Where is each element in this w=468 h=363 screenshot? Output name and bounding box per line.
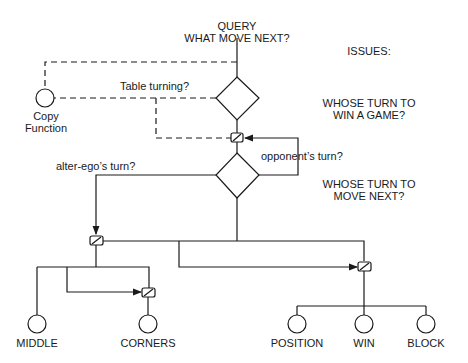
issue2-line1: WHOSE TURN TO [323, 178, 416, 190]
decision-diamond-whose-turn [216, 153, 259, 198]
issue2-line2: MOVE NEXT? [323, 190, 416, 202]
issue1-line1: WHOSE TURN TO [323, 97, 416, 109]
left-branch-bar [37, 267, 149, 290]
issues-heading: ISSUES: [347, 45, 390, 57]
issue1-line2: WIN A GAME? [323, 109, 416, 121]
block-node [417, 315, 435, 333]
copy-function-node [36, 89, 54, 107]
corners-arrow [67, 267, 141, 292]
middle-node [28, 315, 46, 333]
copy-line2: Function [25, 122, 67, 134]
table-turning-label: Table turning? [120, 80, 189, 92]
copy-line1: Copy [25, 110, 67, 122]
block-label: BLOCK [407, 337, 444, 349]
table-turning-return-dashed [156, 98, 231, 138]
flow-diagram: QUERY WHAT MOVE NEXT? ISSUES: WHOSE TURN… [0, 0, 468, 363]
branch-to-right-arrow [179, 241, 357, 267]
query-line1: QUERY [184, 20, 289, 32]
alter-egos-turn-label: alter-ego’s turn? [56, 160, 135, 172]
alter-ego-branch [96, 175, 216, 234]
win-label: WIN [353, 337, 374, 349]
copy-function-label: Copy Function [25, 110, 67, 134]
corners-node [139, 315, 157, 333]
position-node [288, 315, 306, 333]
win-node [355, 315, 373, 333]
corners-label: CORNERS [120, 337, 175, 349]
branch-to-right [103, 241, 364, 261]
query-label: QUERY WHAT MOVE NEXT? [184, 20, 289, 44]
opponents-turn-label: opponent’s turn? [261, 150, 343, 162]
position-label: POSITION [271, 337, 324, 349]
query-line2: WHAT MOVE NEXT? [184, 32, 289, 44]
middle-label: MIDDLE [16, 337, 58, 349]
issue-win-a-game: WHOSE TURN TO WIN A GAME? [323, 97, 416, 121]
decision-diamond-table-turning [216, 77, 259, 120]
issue-move-next: WHOSE TURN TO MOVE NEXT? [323, 178, 416, 202]
